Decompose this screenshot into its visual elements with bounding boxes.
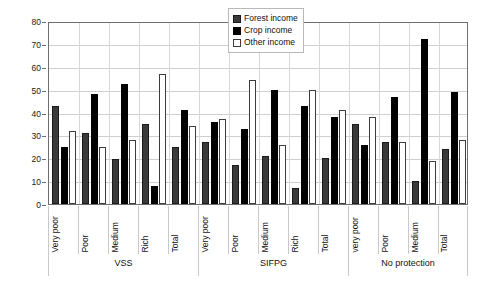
x-axis-category-cell: very poor bbox=[348, 206, 378, 254]
y-axis-tick-mark bbox=[42, 205, 46, 206]
x-axis-category-cell: Medium bbox=[408, 206, 438, 254]
y-axis-tick-mark bbox=[42, 182, 46, 183]
x-axis-category-label: Rich bbox=[291, 235, 300, 252]
x-axis-category-label: Medium bbox=[111, 222, 120, 252]
bar-forest bbox=[352, 124, 359, 204]
bar-forest bbox=[172, 147, 179, 204]
bar-other bbox=[129, 140, 136, 204]
bar-crop bbox=[151, 186, 158, 204]
x-axis-category-cell: Total bbox=[438, 206, 468, 254]
x-axis-group-label: SIFPG bbox=[199, 259, 348, 268]
bar-crop bbox=[451, 92, 458, 204]
bar-forest bbox=[202, 142, 209, 204]
x-axis-group-cell: SIFPG bbox=[198, 254, 348, 276]
y-axis-tick-label: 10 bbox=[32, 178, 41, 187]
bar-other bbox=[69, 131, 76, 204]
bar-forest bbox=[442, 149, 449, 204]
y-axis-tick-label: 60 bbox=[32, 64, 41, 73]
legend-swatch-crop-income bbox=[233, 27, 241, 35]
legend-label-other-income: Other income bbox=[244, 38, 295, 47]
bar-crop bbox=[211, 122, 218, 204]
y-axis-tick-mark bbox=[42, 22, 46, 23]
x-axis-category-label: Very poor bbox=[201, 216, 210, 252]
bar-crop bbox=[421, 39, 428, 204]
bar-other bbox=[399, 142, 406, 204]
bar-forest bbox=[412, 181, 419, 204]
x-axis-category-cell: Poor bbox=[228, 206, 258, 254]
bar-crop bbox=[331, 117, 338, 204]
bar-other bbox=[189, 126, 196, 204]
y-axis-tick-mark bbox=[42, 68, 46, 69]
x-axis-category-label: Poor bbox=[381, 234, 390, 252]
x-axis-category-cell: Very poor bbox=[48, 206, 78, 254]
y-axis-tick-label: 80 bbox=[32, 18, 41, 27]
y-axis-tick-label: 0 bbox=[36, 201, 41, 210]
y-axis-tick-label: 50 bbox=[32, 86, 41, 95]
bar-crop bbox=[241, 129, 248, 204]
x-axis-group-label: VSS bbox=[49, 259, 198, 268]
bar-other bbox=[309, 90, 316, 204]
x-axis-category-label: Medium bbox=[261, 222, 270, 252]
bar-crop bbox=[181, 110, 188, 204]
bar-crop bbox=[91, 94, 98, 204]
y-axis-tick-label: 40 bbox=[32, 109, 41, 118]
x-axis-category-cell: Medium bbox=[258, 206, 288, 254]
x-axis-category-label: very poor bbox=[351, 217, 360, 252]
bar-forest bbox=[322, 158, 329, 204]
bar-other bbox=[99, 147, 106, 204]
x-axis-category-label: Total bbox=[321, 234, 330, 252]
x-axis-group-label: No protection bbox=[349, 259, 467, 268]
x-axis-category-label: Total bbox=[171, 234, 180, 252]
x-axis-category-label: Poor bbox=[231, 234, 240, 252]
x-axis-category-cell: Poor bbox=[378, 206, 408, 254]
bar-forest bbox=[82, 133, 89, 204]
bar-crop bbox=[271, 90, 278, 204]
x-axis-category-label: Medium bbox=[411, 222, 420, 252]
bar-crop bbox=[361, 145, 368, 204]
legend-label-crop-income: Crop income bbox=[244, 26, 292, 35]
x-axis-category-label: Very poor bbox=[51, 216, 60, 252]
x-axis-category-labels: Very poorPoorMediumRichTotalVery poorPoo… bbox=[48, 206, 468, 254]
y-axis-tick-label: 30 bbox=[32, 132, 41, 141]
bar-forest bbox=[142, 124, 149, 204]
bar-crop bbox=[391, 97, 398, 205]
bar-other bbox=[369, 117, 376, 204]
legend-item-forest-income: Forest income bbox=[233, 13, 298, 24]
bar-other bbox=[339, 110, 346, 204]
x-axis-category-label: Total bbox=[440, 234, 449, 252]
x-axis-category-cell: Very poor bbox=[198, 206, 228, 254]
bar-crop bbox=[301, 106, 308, 204]
y-axis-tick-mark bbox=[42, 45, 46, 46]
y-axis-tick-mark bbox=[42, 91, 46, 92]
bar-other bbox=[429, 161, 436, 204]
x-axis-group-cell: VSS bbox=[48, 254, 198, 276]
x-axis-category-cell: Poor bbox=[78, 206, 108, 254]
y-axis-tick-mark bbox=[42, 159, 46, 160]
x-axis-category-cell: Total bbox=[168, 206, 198, 254]
bar-other bbox=[159, 74, 166, 204]
bar-forest bbox=[262, 156, 269, 204]
bar-forest bbox=[112, 159, 119, 204]
legend: Forest income Crop income Other income bbox=[228, 8, 304, 53]
x-axis-category-cell: Rich bbox=[288, 206, 318, 254]
y-axis-tick-mark bbox=[42, 114, 46, 115]
bar-forest bbox=[232, 165, 239, 204]
y-axis-tick-label: 20 bbox=[32, 155, 41, 164]
y-axis: 01020304050607080 bbox=[0, 0, 46, 287]
legend-label-forest-income: Forest income bbox=[244, 14, 298, 23]
x-axis-group-cell: No protection bbox=[348, 254, 468, 276]
x-axis-category-label: Poor bbox=[81, 234, 90, 252]
grouped-bar-chart: 01020304050607080 Forest income Crop inc… bbox=[0, 0, 488, 287]
legend-swatch-forest-income bbox=[233, 15, 241, 23]
bar-forest bbox=[382, 142, 389, 204]
bar-other bbox=[459, 140, 466, 204]
bar-forest bbox=[292, 188, 299, 204]
x-axis-category-label: Rich bbox=[141, 235, 150, 252]
x-axis-category-cell: Medium bbox=[108, 206, 138, 254]
bar-crop bbox=[61, 147, 68, 204]
legend-item-other-income: Other income bbox=[233, 37, 298, 48]
y-axis-tick-mark bbox=[42, 136, 46, 137]
bar-other bbox=[249, 80, 256, 204]
x-axis-category-cell: Total bbox=[318, 206, 348, 254]
bar-other bbox=[219, 119, 226, 204]
